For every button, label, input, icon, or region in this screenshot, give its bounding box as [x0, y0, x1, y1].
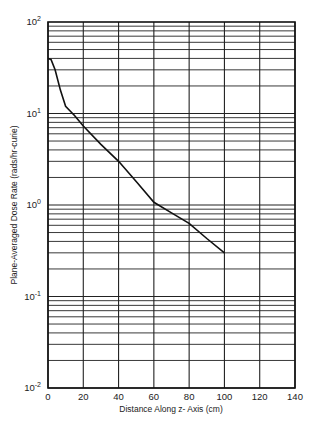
y-tick-label: 100 — [27, 198, 42, 210]
y-axis-label: Plane-Averaged Dose Rate (rads/hr-curie) — [9, 125, 19, 284]
grid-lines — [48, 22, 295, 388]
x-axis-tick-labels: 020406080100120140 — [45, 391, 303, 402]
x-tick-label: 100 — [216, 391, 232, 402]
y-tick-label: 101 — [27, 107, 42, 119]
x-axis-label: Distance Along z- Axis (cm) — [119, 404, 223, 414]
x-tick-label: 60 — [149, 391, 160, 402]
dose-rate-chart: 020406080100120140 10-210-1100101102 Dis… — [0, 0, 317, 423]
x-tick-label: 120 — [252, 391, 268, 402]
y-tick-label: 102 — [27, 15, 42, 27]
y-tick-label: 10-1 — [24, 290, 41, 302]
x-tick-label: 80 — [184, 391, 195, 402]
data-curve — [48, 58, 224, 252]
x-tick-label: 0 — [45, 391, 50, 402]
x-tick-label: 20 — [78, 391, 89, 402]
x-tick-label: 40 — [113, 391, 124, 402]
y-axis-tick-labels: 10-210-1100101102 — [24, 15, 41, 393]
x-tick-label: 140 — [287, 391, 303, 402]
y-tick-label: 10-2 — [24, 381, 41, 393]
